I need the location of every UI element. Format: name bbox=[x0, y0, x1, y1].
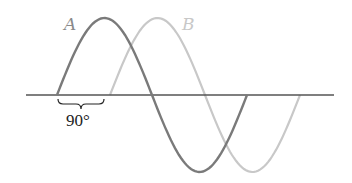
wave-a-label: A bbox=[64, 14, 76, 34]
phase-brace bbox=[58, 99, 104, 109]
phase-angle-label: 90° bbox=[66, 111, 90, 131]
wave-b-label: B bbox=[182, 14, 195, 34]
phase-diagram bbox=[0, 0, 352, 183]
